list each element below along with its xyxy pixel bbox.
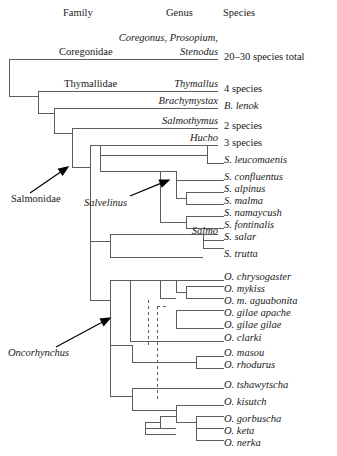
species-label: O. gilae gilae bbox=[224, 319, 282, 330]
column-headers: FamilyGenusSpecies bbox=[63, 7, 255, 18]
family-label: Coregonidae bbox=[59, 46, 113, 57]
callout-label: Salmonidae bbox=[11, 193, 61, 204]
family-labels: CoregonidaeThymallidae bbox=[59, 46, 117, 89]
species-label: S. leucomaenis bbox=[224, 154, 287, 165]
species-label: O. gorbuscha bbox=[224, 413, 281, 424]
callout-arrow-shaft bbox=[30, 172, 61, 193]
species-count-label: 3 species bbox=[224, 137, 262, 148]
species-label: S. namaycush bbox=[224, 207, 282, 218]
species-label: O. kisutch bbox=[224, 396, 267, 407]
genus-label: Hucho bbox=[189, 132, 218, 143]
column-header: Genus bbox=[166, 7, 193, 18]
callout-annotations: SalmonidaeSalvelinusOncorhynchus bbox=[8, 167, 169, 358]
genus-label: Salmo bbox=[192, 225, 218, 236]
genus-labels: Coregonus, Prosopium,StenodusThymallusBr… bbox=[119, 32, 219, 236]
species-label: O. masou bbox=[224, 347, 264, 358]
callout-label: Oncorhynchus bbox=[8, 347, 69, 358]
callout-label: Salvelinus bbox=[84, 197, 127, 208]
genus-label: Coregonus, Prosopium, bbox=[119, 32, 218, 43]
species-label: O. chrysogaster bbox=[224, 271, 292, 282]
phylogenetic-tree-figure: FamilyGenusSpecies CoregonidaeThymallida… bbox=[0, 0, 337, 456]
column-header: Species bbox=[223, 7, 255, 18]
callout-arrow-shaft bbox=[56, 322, 102, 347]
tree-branches-dashed bbox=[148, 300, 168, 400]
species-count-label: 20–30 species total bbox=[224, 51, 305, 62]
tree-diagram: FamilyGenusSpecies CoregonidaeThymallida… bbox=[0, 0, 337, 456]
genus-label: Brachymystax bbox=[159, 95, 219, 106]
callout-arrow-head bbox=[59, 167, 68, 175]
species-label: O. keta bbox=[224, 425, 254, 436]
species-label: B. lenok bbox=[224, 100, 259, 111]
species-count-label: 2 species bbox=[224, 120, 262, 131]
genus-label: Thymallus bbox=[174, 78, 218, 89]
genus-label: Stenodus bbox=[180, 46, 218, 57]
species-label: O. tshawytscha bbox=[224, 379, 288, 390]
callout-arrow-shaft bbox=[130, 183, 161, 196]
species-label: O. clarki bbox=[224, 332, 261, 343]
species-count-label: 4 species bbox=[224, 83, 262, 94]
species-label: O. rhodurus bbox=[224, 359, 275, 370]
species-label: S. trutta bbox=[224, 248, 258, 259]
species-label: O. m. aguabonita bbox=[224, 295, 298, 306]
callout-arrow-head bbox=[159, 180, 169, 187]
species-labels: 20–30 species total4 speciesB. lenok2 sp… bbox=[224, 51, 305, 448]
family-label: Thymallidae bbox=[64, 78, 117, 89]
species-label: O. mykiss bbox=[224, 283, 265, 294]
species-label: S. malma bbox=[224, 195, 263, 206]
column-header: Family bbox=[63, 7, 94, 18]
species-label: S. salar bbox=[224, 231, 257, 242]
species-label: O. nerka bbox=[224, 437, 261, 448]
species-label: S. confluentus bbox=[224, 171, 283, 182]
species-label: S. fontinalis bbox=[224, 219, 274, 230]
species-label: O. gilae apache bbox=[224, 307, 291, 318]
species-label: S. alpinus bbox=[224, 183, 265, 194]
genus-label: Salmothymus bbox=[162, 115, 218, 126]
callout-arrow-head bbox=[100, 318, 110, 325]
